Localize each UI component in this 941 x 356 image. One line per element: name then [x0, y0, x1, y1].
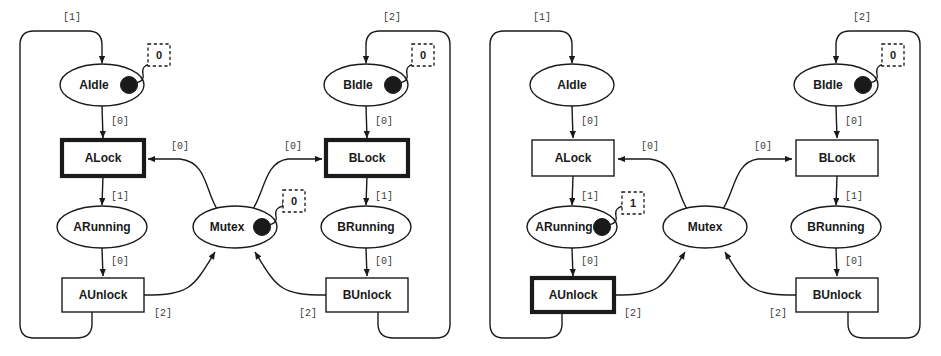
transition-box-aunlock[interactable]	[62, 278, 144, 312]
arc-bidle-block	[836, 106, 837, 138]
token-value-bidle: 0	[890, 49, 896, 61]
arc-label-1: [0]	[581, 116, 599, 127]
diagram-layer: ALockAUnlockBLockBUnlockAIdle0ARunningMu…	[20, 12, 920, 338]
transition-box-alock[interactable]	[532, 140, 614, 176]
place-aidle[interactable]: AIdle	[530, 64, 614, 106]
token-value-mutex: 0	[291, 195, 297, 207]
transition-box-aunlock[interactable]	[532, 278, 614, 312]
place-aidle[interactable]: AIdle0	[60, 44, 170, 106]
arc-mutex-block	[723, 159, 792, 209]
transition-block[interactable]: BLock	[326, 140, 408, 176]
arc-label-3: [0]	[111, 256, 129, 267]
arc-label-2: [1]	[111, 191, 129, 202]
token-dot-bidle	[855, 77, 872, 94]
arc-aidle-alock	[572, 106, 573, 138]
arc-label-6: [0]	[754, 141, 772, 152]
figure-canvas: ALockAUnlockBLockBUnlockAIdle0ARunningMu…	[0, 0, 941, 356]
place-bidle[interactable]: BIdle0	[324, 44, 434, 106]
place-mutex[interactable]: Mutex0	[193, 190, 305, 248]
arc-mutex-alock	[148, 159, 217, 209]
arc-bidle-block	[366, 106, 367, 138]
place-bidle[interactable]: BIdle0	[794, 44, 904, 106]
place-ellipse-aidle[interactable]	[530, 64, 614, 106]
place-brunning[interactable]: BRunning	[321, 206, 411, 248]
token-dot-mutex	[254, 219, 271, 236]
transition-box-alock[interactable]	[62, 140, 144, 176]
token-dot-aidle	[121, 77, 138, 94]
arc-label-0: [1]	[533, 12, 551, 23]
arc-label-11: [0]	[845, 256, 863, 267]
petri-net-figure: ALockAUnlockBLockBUnlockAIdle0ARunningMu…	[0, 0, 941, 356]
token-value-arunning: 1	[630, 197, 636, 209]
arc-aidle-alock	[102, 106, 103, 138]
place-brunning[interactable]: BRunning	[791, 206, 881, 248]
arc-aunlock-mutex	[614, 252, 685, 295]
transition-aunlock[interactable]: AUnlock	[532, 278, 614, 312]
arc-label-7: [2]	[769, 308, 787, 319]
transition-box-block[interactable]	[796, 140, 878, 176]
arc-label-4: [2]	[624, 308, 642, 319]
arc-label-6: [0]	[284, 141, 302, 152]
arc-alock-arunning	[102, 176, 103, 205]
place-ellipse-mutex[interactable]	[663, 206, 747, 248]
transition-box-bunlock[interactable]	[796, 278, 878, 312]
arc-label-10: [1]	[375, 191, 393, 202]
arc-arunning-aunlock	[572, 248, 573, 276]
petri-diagram-right: ALockAUnlockBLockBUnlockAIdleARunning1Mu…	[490, 12, 920, 338]
arc-block-brunning	[836, 176, 837, 205]
arc-label-5: [0]	[641, 141, 659, 152]
arc-bunlock-mutex	[255, 252, 326, 295]
arc-bunlock-mutex	[725, 252, 796, 295]
token-value-bidle: 0	[420, 49, 426, 61]
arc-arunning-aunlock	[102, 248, 103, 276]
transition-box-bunlock[interactable]	[326, 278, 408, 312]
arc-aunlock-mutex	[144, 252, 215, 295]
arc-label-3: [0]	[581, 256, 599, 267]
arc-label-10: [1]	[845, 191, 863, 202]
transition-box-block[interactable]	[326, 140, 408, 176]
arc-label-9: [0]	[845, 116, 863, 127]
transition-aunlock[interactable]: AUnlock	[62, 278, 144, 312]
arc-block-brunning	[366, 176, 367, 205]
arc-label-11: [0]	[375, 256, 393, 267]
arc-label-9: [0]	[375, 116, 393, 127]
transition-alock[interactable]: ALock	[532, 140, 614, 176]
place-ellipse-brunning[interactable]	[321, 206, 411, 248]
arc-alock-arunning	[572, 176, 573, 205]
arc-label-8: [2]	[853, 12, 871, 23]
place-mutex[interactable]: Mutex	[663, 206, 747, 248]
token-value-aidle: 0	[156, 49, 162, 61]
arc-label-7: [2]	[299, 308, 317, 319]
arc-label-2: [1]	[581, 191, 599, 202]
transition-bunlock[interactable]: BUnlock	[326, 278, 408, 312]
arc-label-4: [2]	[154, 308, 172, 319]
arc-brunning-bunlock	[836, 248, 837, 276]
transition-bunlock[interactable]: BUnlock	[796, 278, 878, 312]
arc-label-0: [1]	[63, 12, 81, 23]
transition-block[interactable]: BLock	[796, 140, 878, 176]
arc-label-8: [2]	[383, 12, 401, 23]
transition-alock[interactable]: ALock	[62, 140, 144, 176]
token-dot-bidle	[385, 77, 402, 94]
place-ellipse-brunning[interactable]	[791, 206, 881, 248]
petri-diagram-left: ALockAUnlockBLockBUnlockAIdle0ARunningMu…	[20, 12, 450, 338]
token-dot-arunning	[594, 219, 611, 236]
arc-label-5: [0]	[171, 141, 189, 152]
place-ellipse-arunning[interactable]	[57, 206, 147, 248]
arc-brunning-bunlock	[366, 248, 367, 276]
place-arunning[interactable]: ARunning	[57, 206, 147, 248]
arc-label-1: [0]	[111, 116, 129, 127]
